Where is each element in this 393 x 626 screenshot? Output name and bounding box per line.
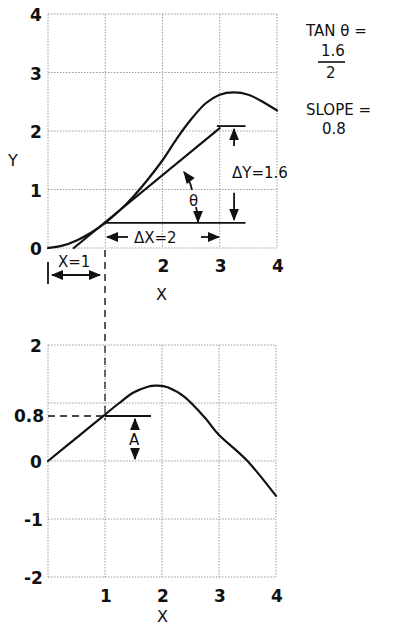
fraction-numerator: 1.6 [321,42,345,60]
top-xtick-label: 2 [158,256,170,276]
top-xtick-label: 4 [272,256,284,276]
top-ytick-label: 2 [30,122,42,142]
top-ytick-label: 0 [30,239,42,259]
fraction-denominator: 2 [326,64,336,82]
slope-label: SLOPE = [306,101,371,119]
x-eq-label: X=1 [58,253,90,271]
top-xtick-label: 3 [215,256,227,276]
bottom-x-axis-label: X [157,607,168,626]
a-label: A [129,431,140,449]
bottom-ytick-0.8: 0.8 [14,406,44,426]
bottom-ytick-label: -2 [24,568,43,588]
bottom-xtick-label: 3 [214,586,226,606]
bottom-ytick-label: 2 [30,336,42,356]
slope-value: 0.8 [322,120,346,138]
bottom-plot-ticks: -2-1021234 [24,336,283,606]
tan-theta-label: TAN θ = [305,22,367,40]
theta-label: θ [189,192,198,210]
bottom-plot-grid [48,345,276,577]
top-x-axis-label: X [156,285,167,304]
bottom-xtick-label: 2 [157,586,169,606]
top-ytick-label: 1 [30,181,42,201]
delta-y-label: ΔY=1.6 [232,164,288,182]
top-y-axis-label: Y [7,151,18,170]
bottom-ytick-label: -1 [24,510,43,530]
figure: 01234234 Y X ΔY=1.6 ΔX=2 θ X=1 TAN θ = 1… [0,0,393,626]
delta-x-label: ΔX=2 [134,229,177,247]
top-plot-grid [48,14,277,248]
theta-arrow-upper [184,172,192,190]
bottom-xtick-label: 4 [271,586,283,606]
bottom-xtick-label: 1 [100,586,112,606]
bottom-ytick-label: 0 [30,452,42,472]
top-ytick-label: 4 [30,5,42,25]
top-ytick-label: 3 [30,64,42,84]
